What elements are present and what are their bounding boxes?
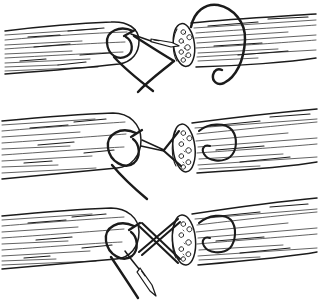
tendon-outline-bottom bbox=[198, 252, 317, 265]
fascicle-bundles bbox=[179, 30, 192, 62]
tendon-outline-top bbox=[191, 14, 316, 23]
suture-needle bbox=[137, 268, 156, 296]
panel-step-2 bbox=[2, 109, 317, 199]
left-tendon-stump bbox=[2, 208, 139, 269]
right-tendon-stump bbox=[170, 198, 317, 266]
tendon-outline-top bbox=[192, 198, 317, 214]
suture-thread-hanging bbox=[112, 165, 147, 199]
fascicle-bundles bbox=[179, 131, 192, 169]
suture-thread-hanging-right bbox=[138, 61, 174, 92]
fascicle-bundles bbox=[179, 222, 192, 261]
anchor-loop-left bbox=[106, 223, 140, 259]
illustration-canvas bbox=[0, 0, 319, 306]
right-tendon-stump bbox=[171, 109, 317, 173]
panel-step-1 bbox=[5, 5, 316, 92]
panel-step-3 bbox=[2, 198, 317, 298]
sutures bbox=[108, 124, 236, 199]
fiber-streaks-dark bbox=[210, 204, 308, 253]
fiber-streaks bbox=[195, 119, 317, 169]
tendon-outline-bottom bbox=[196, 58, 316, 67]
suture-thread-hanging-left bbox=[114, 57, 153, 91]
figure bbox=[0, 0, 319, 306]
left-tendon-stump bbox=[2, 113, 141, 179]
fiber-streaks-dark bbox=[210, 114, 310, 162]
tendon-outline-top bbox=[192, 109, 317, 123]
crossed-threads-thin bbox=[141, 140, 164, 151]
anchor-loop-left bbox=[107, 29, 135, 58]
needle-thread bbox=[125, 251, 139, 269]
sutures bbox=[107, 5, 245, 92]
anchor-loop-right bbox=[199, 124, 236, 160]
